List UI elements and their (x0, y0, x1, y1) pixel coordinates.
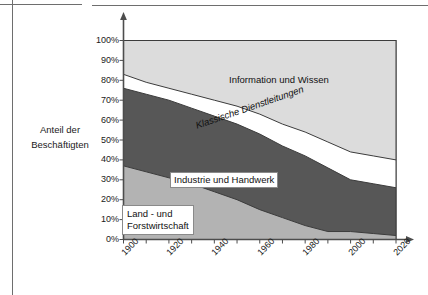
x-axis-tick-1940: 1940 (210, 236, 231, 257)
x-axis-tick-2000: 2000 (347, 236, 368, 257)
x-axis-tick-2020: 2020 (392, 236, 413, 257)
series-label-land-line2: Forstwirtschaft (127, 220, 189, 232)
x-axis-tick-1920: 1920 (165, 236, 186, 257)
x-axis-tick-labels: 1900192019401960198020002020 (0, 0, 428, 295)
x-axis-tick-1960: 1960 (256, 236, 277, 257)
stacked-area-chart: 100%90%80%70%60%50%40%30%20%10%0% 190019… (0, 0, 428, 295)
page-root: Anteil der Beschäftigten 100%90%80%70%60… (0, 0, 428, 295)
series-label-information-und-wissen: Information und Wissen (229, 74, 329, 86)
x-axis-tick-1980: 1980 (301, 236, 322, 257)
x-axis-tick-1900: 1900 (120, 236, 141, 257)
series-label-land-und-forstwirtschaft: Land - und Forstwirtschaft (122, 205, 194, 235)
series-label-industrie-und-handwerk: Industrie und Handwerk (170, 172, 278, 188)
series-label-land-line1: Land - und (127, 208, 189, 220)
